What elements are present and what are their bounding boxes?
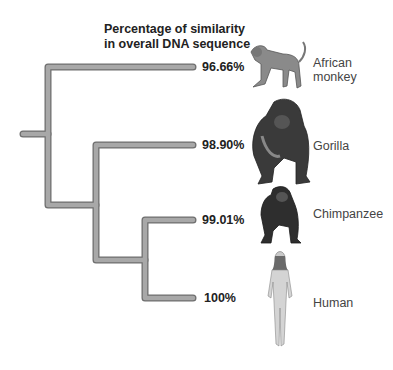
gorilla-icon [244, 96, 314, 186]
name-line-1: African [313, 56, 357, 70]
species-name-human: Human [313, 296, 353, 310]
similarity-monkey: 96.66% [202, 60, 244, 74]
species-name-chimpanzee: Chimpanzee [313, 207, 383, 221]
species-name-monkey: African monkey [313, 56, 357, 84]
similarity-human: 100% [204, 291, 236, 305]
similarity-gorilla: 98.90% [202, 138, 244, 152]
species-name-gorilla: Gorilla [313, 139, 349, 153]
human-icon [262, 250, 298, 350]
monkey-icon [243, 40, 313, 92]
name-line-2: monkey [313, 70, 357, 84]
similarity-chimpanzee: 99.01% [202, 213, 244, 227]
chimpanzee-icon [255, 185, 305, 245]
